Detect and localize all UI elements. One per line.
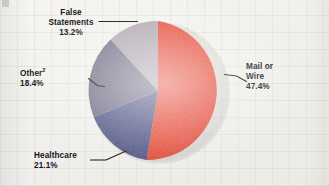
slice-label-other: Other2 18.4%: [20, 69, 90, 89]
slice-label-mail-or-wire-line1: Mail or: [246, 62, 318, 72]
slice-value-mail-or-wire: 47.4%: [246, 82, 318, 92]
slice-label-other-text: Other: [20, 69, 42, 78]
pie-sheen-overlay: [88, 21, 228, 161]
slice-label-mail-or-wire-line2: Wire: [246, 72, 318, 82]
slice-value-other: 18.4%: [20, 79, 90, 89]
slice-label-healthcare-line1: Healthcare: [34, 151, 116, 161]
slice-label-false-statements: False Statements 13.2%: [30, 8, 112, 39]
slice-label-false-statements-line2: Statements: [30, 18, 112, 28]
slice-label-other-footnote-marker: 2: [42, 67, 45, 73]
slice-label-false-statements-line1: False: [30, 8, 112, 18]
slice-value-false-statements: 13.2%: [30, 28, 112, 38]
slice-value-healthcare: 21.1%: [34, 161, 116, 171]
pie-chart-figure: False Statements 13.2% Mail or Wire 47.4…: [0, 0, 329, 186]
slice-label-mail-or-wire: Mail or Wire 47.4%: [246, 62, 318, 93]
slice-label-other-line1: Other2: [20, 69, 90, 79]
slice-label-healthcare: Healthcare 21.1%: [34, 151, 116, 171]
